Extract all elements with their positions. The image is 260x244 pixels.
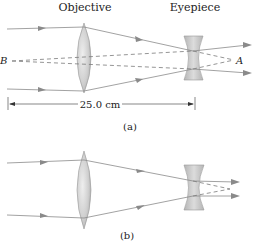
arrow-icon: [38, 26, 46, 31]
panel-b-caption: (b): [120, 230, 134, 241]
arrow-icon: [40, 160, 48, 165]
arrow-icon: [231, 179, 240, 185]
arrow-icon: [135, 78, 143, 83]
objective-label: Objective: [59, 1, 112, 14]
arrow-icon: [231, 193, 240, 199]
eyepiece-label: Eyepiece: [170, 1, 221, 14]
panel-a-caption: (a): [123, 121, 137, 132]
panel-b: (b): [7, 151, 240, 241]
dimension-arrow-left-icon: [9, 102, 15, 106]
eyepiece-lens: [184, 165, 204, 210]
distance-label: 25.0 cm: [80, 99, 121, 110]
point-b-label: B: [0, 55, 7, 66]
arrow-icon: [136, 205, 145, 210]
arrow-icon: [243, 42, 252, 48]
galilean-telescope-diagram: Objective Eyepiece B: [0, 0, 260, 244]
objective-lens: [77, 23, 91, 93]
arrow-icon: [38, 87, 46, 92]
arrow-icon: [40, 213, 48, 218]
dashed-rays: [12, 51, 234, 69]
arrow-icon: [135, 36, 143, 42]
panel-a: Objective Eyepiece B: [0, 1, 252, 132]
arrow-icon: [243, 70, 252, 76]
upper-ray: [7, 27, 248, 51]
eyepiece-lens: [184, 36, 203, 80]
arrow-icon: [136, 169, 145, 173]
dimension-arrow-right-icon: [188, 102, 194, 106]
lower-ray: [7, 69, 248, 91]
point-a-label: A: [235, 55, 243, 66]
